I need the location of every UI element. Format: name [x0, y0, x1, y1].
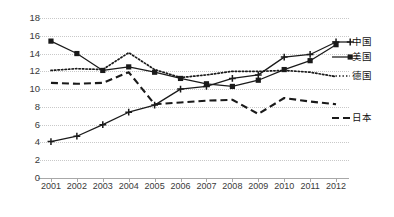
y-tick-label: 14: [16, 49, 40, 59]
gridline-2: [38, 160, 349, 161]
legend-item-china: 中国: [352, 37, 372, 47]
y-tick-label: 18: [16, 13, 40, 23]
y-tick-label: 4: [16, 138, 40, 148]
y-tick-label: 8: [16, 102, 40, 112]
x-tick-label: 2012: [319, 182, 353, 191]
gridline-12: [38, 71, 349, 72]
y-tick-label: 12: [16, 67, 40, 77]
gridline-14: [38, 54, 349, 55]
legend-item-germany: 德国: [352, 71, 372, 81]
gridline-6: [38, 125, 349, 126]
legend-item-usa: 美国: [352, 52, 372, 62]
gridline-0: [38, 178, 349, 179]
legend-label-germany: 德国: [352, 70, 372, 81]
y-tick-label: 10: [16, 84, 40, 94]
gridline-10: [38, 89, 349, 90]
legend-label-japan: 日本: [352, 112, 372, 123]
y-tick-label: 6: [16, 120, 40, 130]
gridline-18: [38, 18, 349, 19]
legend-label-china: 中国: [352, 36, 372, 47]
plot-area: [38, 18, 349, 178]
gridline-4: [38, 142, 349, 143]
legend-item-japan: 日本: [352, 113, 372, 123]
y-tick-label: 16: [16, 31, 40, 41]
gridline-8: [38, 107, 349, 108]
line-chart: 024681012141618 200120022003200420052006…: [0, 0, 394, 217]
legend-label-usa: 美国: [352, 51, 372, 62]
gridline-16: [38, 36, 349, 37]
y-tick-label: 2: [16, 155, 40, 165]
